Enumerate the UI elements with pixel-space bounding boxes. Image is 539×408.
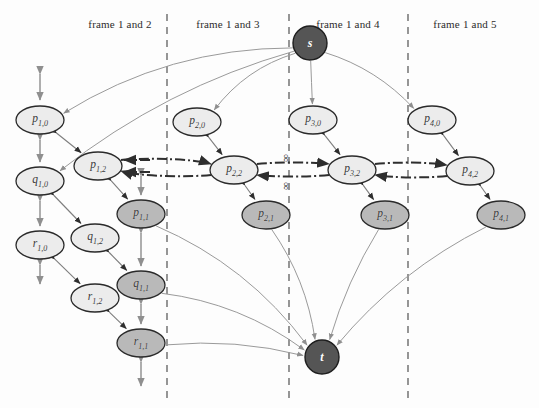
chain-edge-q10-q12 — [54, 196, 81, 224]
node-r12[interactable] — [71, 284, 119, 312]
chain-edge-p32-p31 — [363, 185, 373, 199]
source-edge-s-p20 — [214, 53, 295, 110]
dashdot-edge-p42-to-p32 — [375, 175, 447, 177]
frame-label-2: frame 1 and 4 — [316, 18, 379, 30]
terminal-node-s[interactable] — [293, 26, 327, 60]
frame-label-3: frame 1 and 5 — [433, 18, 496, 30]
source-edge-s-p10 — [64, 48, 293, 113]
node-p31[interactable] — [361, 201, 409, 229]
sink-edge-r11-t — [166, 343, 303, 355]
frame-label-1: frame 1 and 3 — [196, 18, 259, 30]
chain-edge-p12-p11 — [111, 181, 127, 199]
node-p11[interactable] — [117, 200, 165, 228]
graph-svg — [0, 0, 539, 408]
node-p20[interactable] — [173, 108, 221, 136]
chain-edge-r12-r11 — [110, 312, 127, 328]
dashdot-edge-p12-to-p22 — [121, 159, 211, 164]
terminal-node-t[interactable] — [305, 340, 339, 374]
source-edge-s-p30 — [311, 61, 313, 104]
chain-edge-p22-p21 — [245, 186, 255, 200]
node-p42[interactable] — [446, 157, 494, 185]
sink-edge-p41-t — [337, 227, 486, 345]
chain-edge-p10-p12 — [57, 133, 81, 152]
chain-edge-p30-p32 — [325, 135, 340, 154]
dashdot-edge-p22-to-p32 — [257, 163, 329, 165]
chain-edge-p40-p42 — [444, 135, 459, 155]
node-r11[interactable] — [117, 329, 165, 357]
chain-edge-p20-p22 — [209, 137, 222, 154]
node-p41[interactable] — [477, 201, 525, 229]
node-q11[interactable] — [117, 271, 165, 299]
diagram-canvas: frame 1 and 2frame 1 and 3frame 1 and 4f… — [0, 0, 539, 408]
dashdot-edge-p32-to-p42 — [375, 163, 447, 165]
dashdot-edge-p22-to-p12 — [121, 171, 211, 176]
node-p10[interactable] — [16, 106, 64, 134]
node-layer — [16, 26, 525, 374]
node-q12[interactable] — [71, 224, 119, 252]
chain-edge-p42-p41 — [481, 187, 490, 200]
source-edge-s-p40 — [325, 53, 414, 109]
sink-edge-p11-t — [156, 226, 307, 345]
node-r10[interactable] — [16, 231, 64, 259]
node-p12[interactable] — [74, 152, 122, 180]
sink-edge-p21-t — [272, 230, 315, 340]
node-p40[interactable] — [408, 106, 456, 134]
chain-edge-q12-q11 — [109, 253, 127, 271]
node-p30[interactable] — [289, 106, 337, 134]
frame-label-0: frame 1 and 2 — [88, 18, 151, 30]
sink-edge-q11-t — [162, 293, 304, 350]
chain-edge-r10-r12 — [55, 259, 80, 284]
node-p21[interactable] — [242, 201, 290, 229]
dashdot-edge-layer — [121, 159, 447, 178]
dashdot-edge-p32-to-p22 — [257, 175, 329, 177]
node-p32[interactable] — [328, 156, 376, 184]
sink-edge-p31-t — [330, 230, 379, 340]
node-p22[interactable] — [210, 156, 258, 184]
node-q10[interactable] — [16, 167, 64, 195]
